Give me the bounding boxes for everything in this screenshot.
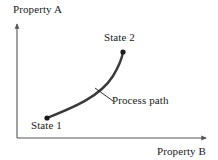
process-path-figure: Property A Property B State 2 State 1 Pr…: [0, 0, 218, 160]
x-axis-label: Property B: [157, 145, 206, 157]
state-2-label: State 2: [104, 31, 135, 43]
process-path-curve: [47, 52, 123, 118]
process-path-label: Process path: [112, 94, 169, 106]
figure-canvas: [0, 0, 218, 160]
process-path-leader-line: [95, 88, 113, 101]
state-1-label: State 1: [31, 119, 62, 131]
y-axis-label: Property A: [13, 3, 62, 15]
state-2-point: [120, 49, 125, 54]
